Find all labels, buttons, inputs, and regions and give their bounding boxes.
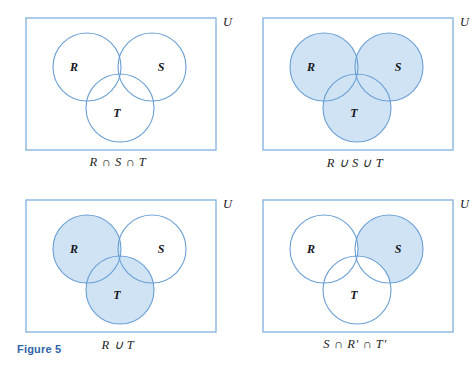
set-label-s: S [158, 242, 165, 256]
set-label-t: T [350, 288, 358, 302]
set-label-s: S [395, 60, 402, 74]
universe-label: U [460, 15, 470, 29]
universe-rectangle [263, 200, 453, 332]
set-label-r: R [306, 60, 315, 74]
circle-s [118, 33, 186, 101]
panel-union-caption: R ∪ S ∪ T [237, 155, 473, 171]
shaded-region [53, 215, 154, 324]
circle-r [290, 215, 358, 283]
set-label-t: T [113, 106, 121, 120]
set-label-r: R [69, 242, 78, 256]
set-label-r: R [306, 242, 315, 256]
circle-s [118, 215, 186, 283]
set-label-s: S [158, 60, 165, 74]
shaded-region [290, 33, 423, 142]
panel-r-union-t: RSTU [0, 182, 236, 362]
universe-rectangle [26, 18, 216, 150]
set-label-t: T [113, 288, 121, 302]
circle-r [53, 33, 121, 101]
set-label-r: R [69, 60, 78, 74]
panel-intersection: RSTU [0, 0, 236, 180]
panel-r-union-t-canvas: RSTU [0, 182, 236, 362]
universe-label: U [223, 197, 233, 211]
panel-s-only-caption: S ∩ R′ ∩ T′ [237, 337, 473, 352]
universe-label: U [460, 197, 470, 211]
set-label-t: T [350, 106, 358, 120]
figure-label: Figure 5 [17, 343, 61, 355]
set-label-s: S [395, 242, 402, 256]
panel-union-canvas: RSTU [237, 0, 473, 180]
panel-union: RSTU [237, 0, 473, 180]
figure-5-venn-diagrams: RSTUR ∩ S ∩ TRSTUR ∪ S ∪ TRSTUR ∪ TRSTUS… [0, 0, 473, 367]
panel-intersection-canvas: RSTU [0, 0, 236, 180]
panel-s-only-canvas: RSTU [237, 182, 473, 362]
panel-intersection-caption: R ∩ S ∩ T [0, 155, 236, 170]
universe-label: U [223, 15, 233, 29]
panel-s-only: RSTU [237, 182, 473, 362]
